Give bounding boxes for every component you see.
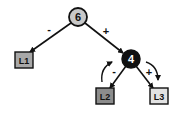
leaf-L1-label: L1 [19, 56, 30, 66]
node-6: 6 [69, 8, 87, 26]
edge-label-6-L1: - [47, 23, 51, 35]
leaf-L2: L2 [96, 88, 114, 104]
tree-diagram: - + - + 6 4 L1 L2 L3 [0, 0, 177, 117]
edge-label-6-4: + [103, 25, 109, 37]
leaf-L3-label: L3 [154, 92, 165, 102]
curved-arrow-left-icon [102, 62, 112, 82]
node-6-label: 6 [75, 11, 81, 23]
leaf-L3: L3 [150, 88, 168, 104]
node-4-label: 4 [128, 53, 135, 65]
leaf-L1: L1 [15, 52, 33, 68]
edge-label-4-L3: + [146, 66, 152, 78]
node-4: 4 [122, 50, 140, 68]
edge-label-4-L2: - [112, 65, 116, 77]
leaf-L2-label: L2 [100, 92, 111, 102]
